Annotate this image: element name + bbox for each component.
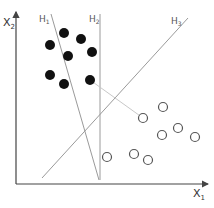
open-point: [139, 114, 148, 123]
filled-point: [85, 75, 95, 85]
class-open-points: [103, 103, 200, 165]
filled-point: [59, 28, 69, 38]
filled-point: [45, 40, 55, 50]
x-axis-label: X1: [193, 187, 205, 202]
svm-hyperplane-diagram: X2 X1 H1 H2 H3: [0, 0, 214, 208]
filled-point: [45, 70, 55, 80]
y-axis-label: X2: [3, 16, 15, 31]
h2-label: H2: [89, 14, 100, 25]
open-point: [174, 124, 183, 133]
hyperplanes: [42, 14, 188, 180]
open-point: [144, 156, 153, 165]
h1-label: H1: [39, 14, 50, 25]
filled-point: [63, 51, 73, 61]
open-point: [103, 153, 112, 162]
margin-line: [90, 80, 143, 118]
open-point: [159, 103, 168, 112]
class-filled-points: [45, 28, 97, 89]
open-point: [158, 131, 167, 140]
filled-point: [76, 34, 86, 44]
h3-label: H3: [171, 16, 182, 27]
open-point: [191, 133, 200, 142]
filled-point: [59, 79, 69, 89]
hyperplane-h1: [51, 14, 99, 180]
filled-point: [87, 47, 97, 57]
open-point: [130, 150, 139, 159]
